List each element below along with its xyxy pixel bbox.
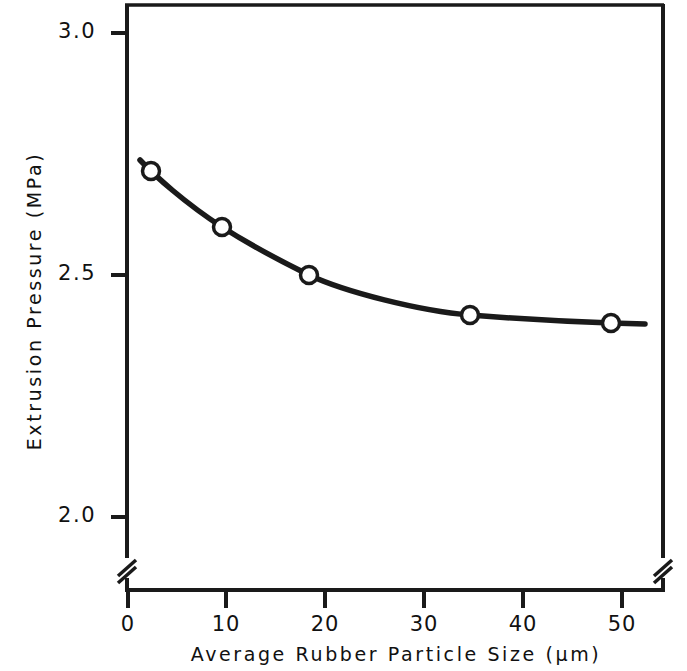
- extrusion-pressure-line-chart: [0, 0, 687, 671]
- x-tick-label-40: 40: [493, 612, 553, 636]
- data-curve: [140, 160, 645, 324]
- axis-break-marks: [118, 560, 672, 583]
- x-tick-label-50: 50: [592, 612, 652, 636]
- chart-figure: 3.0 2.5 2.0 0 10 20 30 40 50 Extrusion P…: [0, 0, 687, 671]
- data-point-4: [462, 307, 479, 324]
- data-point-2: [214, 219, 231, 236]
- x-tick-label-0: 0: [98, 612, 158, 636]
- y-axis-title: Extrusion Pressure (MPa): [23, 71, 45, 531]
- x-tick-label-20: 20: [295, 612, 355, 636]
- data-point-markers: [143, 163, 620, 332]
- data-point-5: [603, 315, 620, 332]
- x-tick-label-10: 10: [196, 612, 256, 636]
- x-axis-title: Average Rubber Particle Size (µm): [126, 643, 666, 665]
- data-point-3: [301, 267, 318, 284]
- data-point-1: [143, 163, 160, 180]
- x-tick-label-30: 30: [394, 612, 454, 636]
- plot-frame: [125, 4, 664, 592]
- y-tick-label-3.0: 3.0: [18, 19, 96, 43]
